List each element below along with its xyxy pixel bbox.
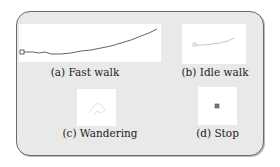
trajectory-line xyxy=(19,24,161,62)
trajectory-fast-walk xyxy=(19,24,161,62)
caption-a: (a) Fast walk xyxy=(35,66,135,78)
trajectory-wandering xyxy=(77,89,116,126)
trajectory-line xyxy=(182,24,246,64)
caption-d: (d) Stop xyxy=(180,127,255,139)
trajectory-line xyxy=(77,89,116,126)
trajectory-stop xyxy=(198,87,237,125)
trajectory-line xyxy=(198,87,237,125)
trajectory-idle-walk xyxy=(182,24,246,64)
caption-b: (b) Idle walk xyxy=(170,66,260,78)
caption-c: (c) Wandering xyxy=(50,127,150,139)
